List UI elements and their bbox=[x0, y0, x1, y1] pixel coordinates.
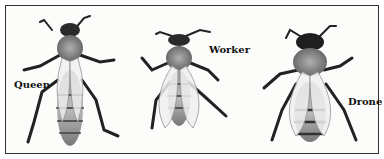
bee-castes-figure: Queen Worker Drone bbox=[0, 0, 384, 159]
worker-label: Worker bbox=[209, 44, 250, 55]
drone-label: Drone bbox=[348, 96, 382, 107]
queen-label: Queen bbox=[14, 79, 50, 90]
bee-illustrations bbox=[0, 0, 384, 159]
drone-bee-icon bbox=[264, 26, 356, 142]
